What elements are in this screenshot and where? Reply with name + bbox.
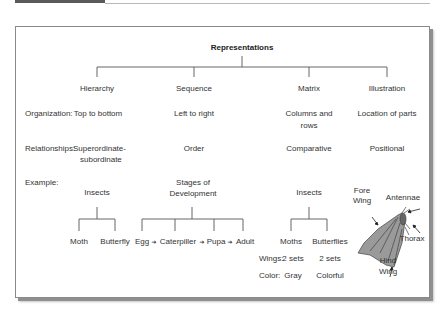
hierarchy-example-child-butterfly: Butterfly: [100, 237, 129, 247]
hierarchy-example-child-moth: Moth: [70, 237, 88, 247]
label-hind-wing-line2: Wing: [379, 267, 397, 277]
column-hierarchy: Hierarchy: [80, 84, 114, 94]
hierarchy-relationships-line2: subordinate: [80, 155, 122, 165]
illustration-relationships: Positional: [370, 144, 405, 154]
sequence-organization: Left to right: [174, 109, 214, 119]
row-label-example: Example:: [25, 178, 58, 188]
sequence-step-caterpiller: Caterpiller: [160, 237, 196, 247]
diagram-title: Representations: [211, 43, 274, 53]
column-matrix: Matrix: [298, 84, 320, 94]
matrix-organization-line2: rows: [301, 121, 318, 131]
label-thorax: Thorax: [400, 234, 425, 244]
matrix-column-moths: Moths: [280, 237, 302, 247]
sequence-example-root-line1: Stages of: [176, 178, 210, 188]
label-fore-wing-line1: Fore: [354, 186, 370, 196]
matrix-relationships: Comparative: [286, 144, 331, 154]
matrix-row-label-color: Color:: [259, 271, 280, 281]
hierarchy-relationships-line1: Superordinate-: [73, 144, 126, 154]
sequence-step-pupa: Pupa: [207, 237, 226, 247]
matrix-column-butterflies: Butterflies: [312, 237, 348, 247]
matrix-example-root: Insects: [296, 188, 321, 198]
hierarchy-organization: Top to bottom: [74, 109, 122, 119]
arrow-icon: ➔: [199, 237, 204, 247]
hierarchy-example-root: Insects: [84, 188, 109, 198]
sequence-relationships: Order: [184, 144, 204, 154]
arrow-icon: ➔: [227, 237, 232, 247]
label-fore-wing-line2: Wing: [353, 196, 371, 206]
column-illustration: Illustration: [369, 84, 405, 94]
sequence-step-adult: Adult: [236, 237, 254, 247]
column-sequence: Sequence: [176, 84, 212, 94]
matrix-row-label-wings: Wings:: [259, 254, 283, 264]
illustration-organization: Location of parts: [357, 109, 416, 119]
label-antennae: Antennae: [386, 193, 420, 203]
arrow-icon: ➔: [151, 237, 156, 247]
sequence-step-egg: Egg: [135, 237, 149, 247]
matrix-cell-moth-wings: 2 sets: [282, 254, 303, 264]
matrix-organization-line1: Columns and: [285, 109, 332, 119]
row-label-organization: Organization:: [25, 109, 73, 119]
row-label-relationships: Relationships:: [25, 144, 75, 154]
matrix-cell-butterfly-color: Colorful: [316, 271, 344, 281]
label-hind-wing-line1: Hind: [380, 256, 396, 266]
sequence-example-root-line2: Development: [169, 189, 216, 199]
matrix-cell-butterfly-wings: 2 sets: [319, 254, 340, 264]
matrix-cell-moth-color: Gray: [284, 271, 301, 281]
